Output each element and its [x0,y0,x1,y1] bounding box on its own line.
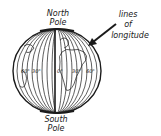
south-pole-label: South Pole [44,115,67,133]
svg-text:longitude: longitude [111,31,149,40]
meridian-label-60e: 60° [86,68,95,74]
meridian-labels: 60° 30° 0° 30° 60° [21,68,95,74]
svg-text:lines: lines [119,10,138,19]
globe-diagram: 60° 30° 0° 30° 60° North Pole South Pole… [0,0,161,136]
svg-text:of: of [124,20,133,29]
svg-text:North: North [47,9,69,18]
svg-text:South: South [44,115,67,124]
meridian-label-30w: 30° [32,68,41,74]
meridian-label-60w: 60° [21,68,30,74]
meridian-label-30e: 30° [72,68,81,74]
north-pole-label: North Pole [47,9,69,27]
longitude-callout: lines of longitude [88,10,149,46]
meridian-label-0: 0° [57,68,63,74]
svg-text:Pole: Pole [50,18,67,27]
svg-text:Pole: Pole [48,124,65,133]
